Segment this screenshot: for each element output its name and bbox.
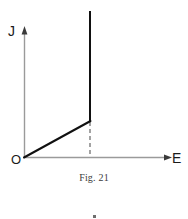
figure-caption: Fig. 21 xyxy=(0,172,188,183)
origin-label: O xyxy=(11,153,21,166)
x-axis-arrowhead-icon xyxy=(164,154,172,160)
linear-segment xyxy=(24,121,91,158)
page-scan-artifact xyxy=(93,215,96,218)
figure-container: J O E Fig. 21 xyxy=(0,0,188,219)
y-axis-arrowhead-icon xyxy=(22,26,28,35)
x-axis-label: E xyxy=(172,151,181,165)
y-axis-label: J xyxy=(8,24,15,38)
jE-plot-svg xyxy=(0,0,188,219)
